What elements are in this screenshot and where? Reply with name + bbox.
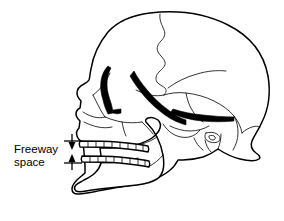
label-line-1: Freeway [14, 143, 58, 155]
orbital-floor-heavy [113, 109, 121, 114]
label-line-2: space [14, 156, 45, 168]
dimension-arrowhead-up [69, 154, 76, 162]
skull-diagram: Freeway space [0, 0, 284, 221]
freeway-space-label: Freeway space [14, 143, 58, 168]
dimension-arrowhead-down [69, 142, 76, 150]
